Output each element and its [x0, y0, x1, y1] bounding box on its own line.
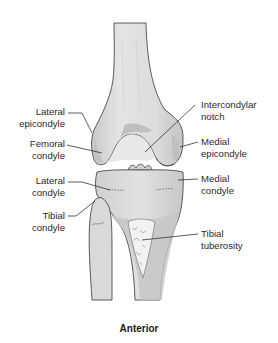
leader-lateral-epicondyle [68, 113, 92, 133]
label-lateral-condyle: Lateral condyle [32, 175, 65, 199]
intercondylar-eminence [128, 164, 152, 170]
label-tibial-condyle: Tibial condyle [32, 210, 65, 234]
femur [92, 23, 183, 166]
view-caption: Anterior [0, 323, 278, 334]
knee-joint-illustration [0, 0, 278, 343]
label-tibial-tuberosity: Tibial tuberosity [201, 228, 243, 252]
label-lateral-epicondyle: Lateral epicondyle [19, 106, 65, 130]
label-medial-epicondyle: Medial epicondyle [201, 136, 247, 160]
label-femoral-condyle: Femoral condyle [30, 138, 65, 162]
label-medial-condyle: Medial condyle [201, 173, 234, 197]
fibula [89, 198, 112, 300]
label-intercondylar-notch: Intercondylar notch [201, 99, 256, 123]
